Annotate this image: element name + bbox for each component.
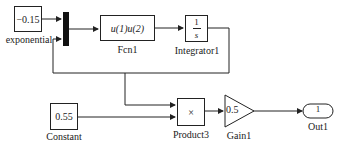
integrator-numerator: 1: [194, 17, 199, 27]
exponential-value: −0.15: [16, 14, 39, 25]
gain1-value: 0.5: [226, 104, 246, 115]
mux-block[interactable]: [63, 12, 69, 46]
fcn1-block[interactable]: u(1)u(2): [100, 15, 155, 41]
gain1-label: Gain1: [222, 130, 256, 141]
out1-port-number[interactable]: 1: [303, 104, 333, 114]
out1-label: Out1: [303, 121, 333, 132]
constant-label: Constant: [40, 131, 88, 142]
product-multiply-icon: ×: [188, 107, 194, 118]
integrator-denominator: s: [195, 30, 199, 40]
product3-block[interactable]: ×: [177, 98, 205, 126]
fcn1-label: Fcn1: [100, 44, 155, 55]
constant-block[interactable]: 0.55: [50, 103, 78, 130]
constant-value: 0.55: [55, 111, 73, 122]
integrator1-label: Integrator1: [172, 45, 222, 56]
integrator-transfer-function: 1 s: [193, 17, 201, 40]
exponential-label: exponential: [0, 34, 58, 45]
fcn1-expression: u(1)u(2): [111, 23, 144, 34]
exponential-block[interactable]: −0.15: [14, 6, 42, 32]
integrator1-block[interactable]: 1 s: [185, 15, 208, 42]
product3-label: Product3: [166, 129, 216, 140]
